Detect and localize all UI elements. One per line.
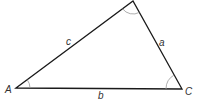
side-label-b: b [98,90,104,101]
side-label-c: c [66,36,71,47]
vertex-label-A: A [4,84,12,95]
side-label-a: a [159,37,165,48]
triangle [16,1,182,89]
angle-arc-B [123,9,140,14]
angle-arc-A [27,80,30,88]
triangle-diagram: A C c a b [0,0,198,108]
vertex-label-C: C [185,86,193,97]
angle-arc-C [166,75,174,89]
